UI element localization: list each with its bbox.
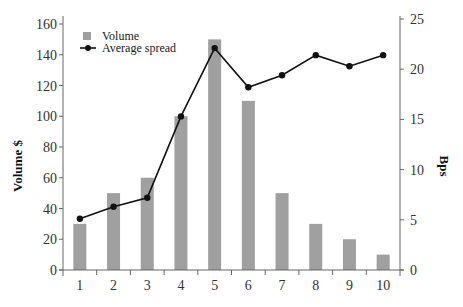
x-tick-label: 8	[312, 278, 319, 293]
right-tick-label: 25	[410, 12, 424, 27]
right-tick-label: 20	[410, 62, 424, 77]
volume-bar	[174, 116, 187, 270]
spread-marker	[144, 195, 150, 201]
x-tick-label: 2	[110, 278, 117, 293]
volume-bar	[377, 255, 390, 270]
x-tick-label: 10	[376, 278, 390, 293]
left-tick-label: 160	[36, 17, 57, 32]
volume-bar	[276, 193, 289, 270]
x-tick-label: 9	[346, 278, 353, 293]
spread-marker	[279, 72, 285, 78]
legend-spread-label: Average spread	[102, 41, 176, 55]
right-axis-title: Bps	[437, 156, 452, 177]
volume-bar	[73, 224, 86, 270]
legend-volume-swatch	[83, 32, 91, 40]
x-tick-label: 6	[245, 278, 252, 293]
left-tick-label: 120	[36, 79, 57, 94]
x-tick-label: 3	[144, 278, 151, 293]
left-tick-label: 0	[50, 263, 57, 278]
x-tick-label: 4	[177, 278, 184, 293]
right-tick-label: 5	[410, 213, 417, 228]
left-tick-label: 40	[43, 202, 57, 217]
spread-marker	[110, 204, 116, 210]
spread-marker	[380, 52, 386, 58]
spread-marker	[77, 216, 83, 222]
spread-marker	[245, 84, 251, 90]
right-tick-label: 15	[410, 112, 424, 127]
left-tick-label: 60	[43, 171, 57, 186]
spread-marker	[346, 63, 352, 69]
left-tick-label: 100	[36, 109, 57, 124]
spread-marker	[313, 52, 319, 58]
right-tick-label: 10	[410, 163, 424, 178]
volume-bar	[208, 39, 221, 270]
chart: 0204060801001201401600510152025123456789…	[0, 0, 463, 307]
legend: Volume Average spread	[80, 29, 176, 55]
average-spread-line	[77, 45, 387, 222]
spread-marker	[211, 45, 217, 51]
volume-bar	[141, 178, 154, 270]
left-tick-label: 80	[43, 140, 57, 155]
volume-bar	[242, 101, 255, 270]
left-axis-title: Volume $	[10, 140, 25, 192]
volume-bars	[73, 39, 389, 270]
x-tick-label: 1	[76, 278, 83, 293]
x-tick-label: 7	[279, 278, 286, 293]
volume-bar	[309, 224, 322, 270]
axes: 0204060801001201401600510152025123456789…	[36, 12, 424, 293]
spread-marker	[178, 113, 184, 119]
volume-bar	[343, 239, 356, 270]
spread-polyline	[80, 48, 383, 219]
right-tick-label: 0	[410, 263, 417, 278]
left-tick-label: 140	[36, 48, 57, 63]
left-tick-label: 20	[43, 232, 57, 247]
x-tick-label: 5	[211, 278, 218, 293]
legend-spread-marker-icon	[85, 45, 91, 51]
